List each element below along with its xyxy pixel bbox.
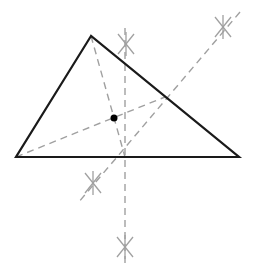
arc-mark-top — [118, 32, 134, 56]
construction-lines — [16, 12, 240, 265]
intersection-point — [111, 115, 118, 122]
bisector-right-side — [78, 12, 240, 203]
arc-marks — [85, 15, 231, 259]
arc-mark-lower-left — [85, 171, 101, 195]
geometry-diagram — [0, 0, 258, 273]
median-from-top-vertex — [91, 36, 125, 157]
arc-mark-bottom — [117, 235, 133, 259]
arc-mark-top-right — [215, 15, 231, 39]
triangle — [16, 36, 239, 157]
